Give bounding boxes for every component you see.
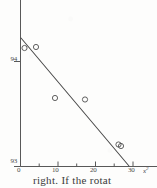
x-axis-tick-label-10: 10	[52, 167, 59, 174]
chart-plot-area	[0, 0, 157, 170]
data-point	[82, 97, 87, 102]
x-axis-ticks	[21, 162, 134, 167]
chart-svg	[0, 0, 157, 170]
x-axis-tick-label-30: 30	[128, 167, 135, 174]
data-point	[52, 95, 57, 100]
fit-line	[21, 38, 129, 166]
data-point	[33, 44, 38, 49]
figure-page: 94 93 0 10 20 30 x2 right. If the rotat	[0, 0, 157, 188]
x-axis-tick-label-0: 0	[17, 167, 20, 174]
y-axis-tick-label-9-3: 93	[0, 158, 17, 165]
y-axis-ticks	[14, 62, 21, 167]
data-point	[22, 45, 27, 50]
page-body-text-fragment: right. If the rotat	[0, 174, 157, 188]
y-axis-tick-label-9-4: 94	[0, 56, 17, 63]
x-axis-title-exponent: 2	[146, 166, 149, 171]
x-axis-tick-label-20: 20	[90, 167, 97, 174]
data-points	[22, 44, 124, 148]
